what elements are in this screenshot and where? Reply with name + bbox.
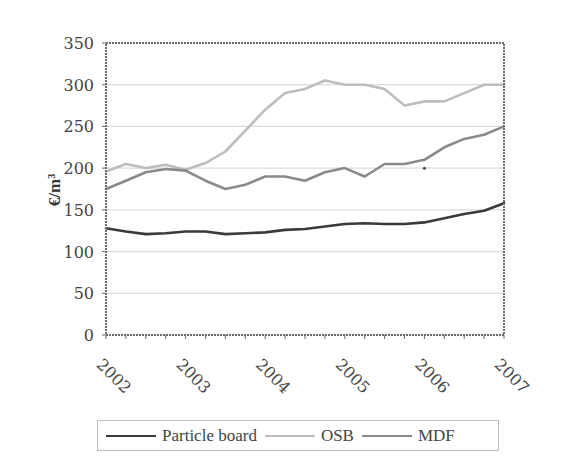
plot-frame [106, 43, 504, 335]
legend-label: Particle board [162, 426, 257, 446]
y-tick-label: 150 [63, 201, 94, 220]
legend-item-particle-board: Particle board [106, 426, 257, 446]
x-tick-label: 2004 [252, 355, 294, 397]
x-tick-label: 2007 [491, 355, 533, 397]
legend-item-mdf: MDF [362, 426, 455, 446]
y-tick-label: 250 [63, 117, 94, 136]
series-line-mdf [106, 126, 504, 189]
y-tick-label: 350 [63, 34, 94, 53]
y-axis-label: €/m³ [45, 174, 64, 206]
data-series [106, 81, 504, 235]
legend-item-osb: OSB [265, 426, 354, 446]
series-line-particle-board [106, 203, 504, 234]
y-tick-label: 50 [74, 284, 94, 303]
legend-swatch-particle-board [106, 435, 156, 437]
x-tick-label: 2003 [172, 355, 214, 397]
y-tick-label: 300 [63, 76, 94, 95]
legend: Particle board OSB MDF [97, 420, 499, 451]
gridlines [106, 85, 504, 294]
y-tick-label: 200 [63, 159, 94, 178]
stray-dot-marker [423, 167, 426, 170]
y-tick-label: 0 [84, 326, 94, 345]
x-tick-label: 2005 [332, 355, 374, 397]
legend-label: MDF [418, 426, 455, 446]
y-tick-label: 100 [63, 243, 94, 262]
legend-label: OSB [321, 426, 354, 446]
x-axis-ticks: 200220032004200520062007 [93, 335, 533, 397]
y-axis-ticks: 050100150200250300350 [63, 34, 106, 345]
legend-swatch-osb [265, 435, 315, 437]
legend-swatch-mdf [362, 435, 412, 437]
line-chart: 050100150200250300350 200220032004200520… [0, 0, 573, 420]
x-tick-label: 2002 [93, 355, 135, 397]
x-tick-label: 2006 [411, 355, 453, 397]
